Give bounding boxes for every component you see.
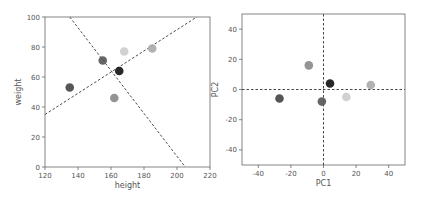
y-tick-label: 0 (233, 86, 237, 94)
data-point (318, 97, 327, 106)
x-tick-label: -20 (285, 170, 296, 178)
data-point (305, 61, 314, 70)
data-points (65, 44, 156, 102)
y-tick-label: -40 (226, 146, 237, 154)
x-tick-label: 120 (38, 172, 51, 180)
x-axis-label: PC1 (316, 179, 332, 188)
y-axis-label: weight (14, 79, 23, 106)
dashed-line (45, 17, 197, 115)
x-tick-label: 160 (104, 172, 117, 180)
data-point (326, 79, 335, 88)
y-tick-label: 80 (31, 44, 40, 52)
x-tick-label: 20 (352, 170, 361, 178)
y-tick-label: 0 (36, 164, 40, 172)
y-tick-label: -20 (226, 116, 237, 124)
x-tick-label: 40 (384, 170, 393, 178)
data-point (120, 47, 129, 56)
y-tick-label: 60 (31, 74, 40, 82)
x-tick-label: 0 (321, 170, 325, 178)
data-point (275, 94, 284, 103)
data-point (110, 94, 119, 103)
data-point (148, 44, 157, 53)
reference-lines (45, 17, 197, 167)
data-point (115, 67, 124, 76)
height-weight-scatter-plot: 120140160180200220020406080100heightweig… (14, 14, 217, 191)
x-tick-label: 180 (137, 172, 150, 180)
data-point (366, 81, 375, 90)
x-tick-label: 220 (203, 172, 216, 180)
pca-scatter-plot: -40-2002040-40-2002040PC1PC2 (211, 14, 405, 188)
x-tick-label: 200 (170, 172, 183, 180)
y-tick-label: 40 (228, 26, 237, 34)
y-tick-label: 20 (228, 56, 237, 64)
data-points (275, 61, 375, 106)
data-point (98, 56, 107, 65)
x-tick-label: -40 (253, 170, 264, 178)
x-axis-label: height (115, 181, 141, 190)
y-tick-label: 40 (31, 104, 40, 112)
data-point (342, 93, 351, 102)
figure: 120140160180200220020406080100heightweig… (0, 0, 421, 200)
y-tick-label: 20 (31, 134, 40, 142)
y-tick-label: 100 (27, 14, 40, 22)
reference-lines (242, 14, 405, 165)
dashed-line (70, 17, 186, 167)
data-point (65, 83, 74, 92)
x-tick-label: 140 (71, 172, 84, 180)
y-axis-label: PC2 (211, 82, 220, 98)
